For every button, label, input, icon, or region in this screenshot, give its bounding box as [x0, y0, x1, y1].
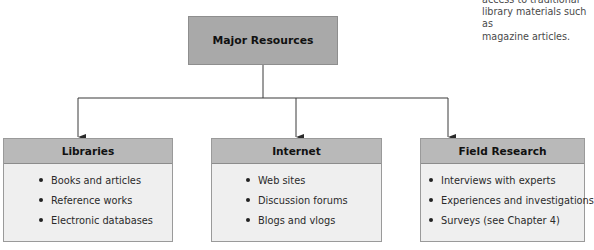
list-item: Web sites: [246, 171, 381, 191]
category-list-internet: Web sites Discussion forums Blogs and vl…: [212, 164, 381, 231]
bullet-icon: [429, 178, 433, 182]
list-item: Surveys (see Chapter 4): [429, 211, 584, 231]
bullet-icon: [429, 218, 433, 222]
root-node-major-resources: Major Resources: [188, 16, 338, 65]
bullet-icon: [246, 218, 250, 222]
bullet-icon: [429, 198, 433, 202]
list-item: Experiences and investigations: [429, 191, 584, 211]
list-item-text: Books and articles: [51, 175, 141, 186]
root-node-label: Major Resources: [213, 34, 314, 47]
list-item: Books and articles: [39, 171, 172, 191]
category-box-internet: Internet Web sites Discussion forums Blo…: [211, 138, 382, 242]
category-header-field-research: Field Research: [421, 139, 584, 164]
bullet-icon: [39, 178, 43, 182]
list-item-text: Interviews with experts: [441, 175, 556, 186]
list-item: Reference works: [39, 191, 172, 211]
category-header-internet: Internet: [212, 139, 381, 164]
list-item-text: Experiences and investigations: [441, 195, 594, 206]
list-item-text: Discussion forums: [258, 195, 348, 206]
category-list-libraries: Books and articles Reference works Elect…: [4, 164, 172, 231]
list-item: Electronic databases: [39, 211, 172, 231]
list-item-text: Blogs and vlogs: [258, 215, 335, 226]
category-box-libraries: Libraries Books and articles Reference w…: [3, 138, 173, 242]
list-item-text: Reference works: [51, 195, 132, 206]
bullet-icon: [39, 218, 43, 222]
list-item: Discussion forums: [246, 191, 381, 211]
list-item: Interviews with experts: [429, 171, 584, 191]
bullet-icon: [246, 178, 250, 182]
list-item-text: Web sites: [258, 175, 305, 186]
category-list-field-research: Interviews with experts Experiences and …: [421, 164, 584, 231]
list-item-text: Surveys (see Chapter 4): [441, 215, 560, 226]
category-header-libraries: Libraries: [4, 139, 172, 164]
category-box-field-research: Field Research Interviews with experts E…: [420, 138, 585, 242]
list-item-text: Electronic databases: [51, 215, 153, 226]
bullet-icon: [39, 198, 43, 202]
bullet-icon: [246, 198, 250, 202]
list-item: Blogs and vlogs: [246, 211, 381, 231]
margin-note-text: access to traditional library materials …: [482, 0, 592, 43]
